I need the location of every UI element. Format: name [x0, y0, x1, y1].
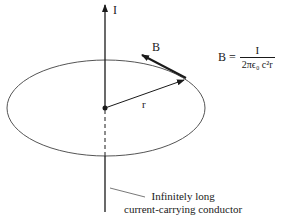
formula-numerator: I	[253, 44, 261, 57]
radius-label: r	[142, 98, 146, 110]
field-label: B	[152, 40, 160, 55]
current-label: I	[113, 3, 117, 18]
formula-lhs: B =	[218, 50, 236, 65]
formula-denominator: 2πϵ₀ c²r	[240, 57, 275, 70]
caption-line-2: current-carrying conductor	[124, 203, 242, 216]
b-field-arrow	[142, 55, 186, 78]
caption-line-1: Infinitely long	[124, 190, 242, 203]
field-formula: B = I 2πϵ₀ c²r	[218, 44, 275, 70]
conductor-caption: Infinitely long current-carrying conduct…	[124, 190, 242, 216]
formula-fraction: I 2πϵ₀ c²r	[240, 44, 275, 70]
